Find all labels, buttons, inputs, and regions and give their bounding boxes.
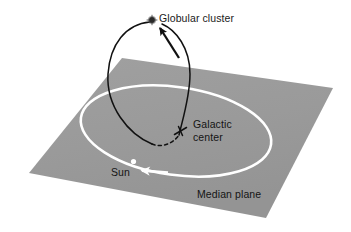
label-galactic-center-line2: center xyxy=(193,131,232,144)
globular-cluster-marker xyxy=(147,15,158,25)
label-galactic-center: Galactic center xyxy=(193,118,232,143)
trajectory-direction-arrow xyxy=(160,28,179,58)
astronomy-diagram-svg xyxy=(0,0,351,232)
diagram-canvas: Globular cluster Galactic center Sun Med… xyxy=(0,0,351,232)
sun-marker xyxy=(131,159,136,164)
label-median-plane: Median plane xyxy=(197,188,261,201)
label-globular-cluster: Globular cluster xyxy=(159,12,234,25)
label-galactic-center-line1: Galactic xyxy=(193,118,232,131)
median-plane-shape xyxy=(29,58,333,218)
label-sun: Sun xyxy=(111,166,130,179)
